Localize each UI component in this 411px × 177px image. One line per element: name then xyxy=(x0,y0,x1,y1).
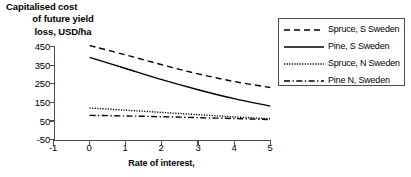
legend-label-spruce-n-sweden: Spruce, N Sweden xyxy=(328,58,400,69)
legend-label-spruce-s-sweden: Spruce, S Sweden xyxy=(328,24,399,35)
legend-swatch-dashdot-icon xyxy=(283,75,325,87)
legend-item-pine-s-sweden: Pine, S Sweden xyxy=(279,38,406,55)
series-line-pine-s-sweden xyxy=(90,57,271,106)
legend-item-pine-n-sweden: Pine N, Sweden xyxy=(279,72,406,89)
legend-swatch-dashed-icon xyxy=(283,24,325,36)
series-lines xyxy=(90,46,271,120)
legend-swatch-solid-icon xyxy=(283,41,325,53)
legend: Spruce, S Sweden Pine, S Sweden Spruce, … xyxy=(278,18,405,86)
chart-figure: Capitalised cost of future yield loss, U… xyxy=(0,0,411,177)
legend-swatch-dotted-icon xyxy=(283,58,325,70)
legend-item-spruce-n-sweden: Spruce, N Sweden xyxy=(279,55,406,72)
legend-label-pine-n-sweden: Pine N, Sweden xyxy=(328,75,390,86)
legend-item-spruce-s-sweden: Spruce, S Sweden xyxy=(279,21,406,38)
series-line-spruce-s-sweden xyxy=(90,46,271,88)
axis-lines xyxy=(50,46,272,146)
legend-label-pine-s-sweden: Pine, S Sweden xyxy=(328,41,389,52)
